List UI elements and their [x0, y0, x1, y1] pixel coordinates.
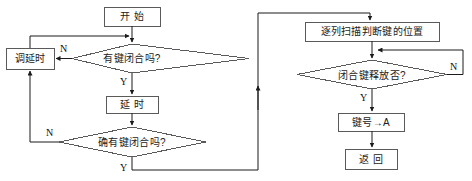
branch-label-key-closed-yes: Y	[120, 77, 127, 87]
shape-delay	[106, 96, 158, 113]
branch-label-released-yes: Y	[360, 93, 367, 103]
branch-label-confirm-yes: Y	[120, 163, 127, 173]
branch-label-key-closed-no: N	[60, 44, 67, 54]
edge-debounce-to-trunk	[30, 36, 129, 48]
branch-label-released-no: N	[450, 62, 457, 72]
flowchart-svg	[0, 0, 472, 181]
shape-key-closed-decision	[72, 44, 249, 73]
shape-return	[345, 149, 397, 169]
edge-confirm-yes-to-column-scan	[132, 13, 370, 170]
shape-released-decision	[297, 60, 447, 89]
flowchart-canvas: 开 始 调延时 有键闭合吗? 延 时 确有键闭合吗? 逐列扫描判断键的位置 闭合…	[0, 0, 472, 181]
shape-key-to-a	[338, 113, 404, 131]
shape-start	[104, 7, 160, 26]
shape-confirm-decision	[59, 127, 206, 157]
shape-column-scan	[305, 22, 439, 41]
edge-confirm-no-to-debounce	[30, 71, 59, 142]
shape-debounce-delay	[6, 48, 54, 69]
branch-label-confirm-no: N	[46, 128, 53, 138]
